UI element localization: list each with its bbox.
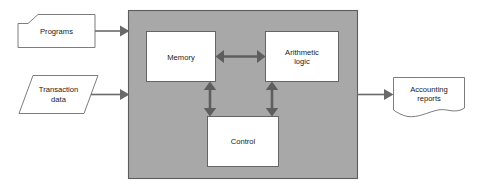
control-label: Control: [231, 137, 256, 146]
connector-transaction-to-cpu: [91, 89, 130, 100]
programs-label: Programs: [40, 27, 73, 36]
arithmetic-logic-label-line1: Arithmetic: [285, 48, 319, 57]
transaction-data-label-line2: data: [51, 95, 67, 104]
diagram-canvas: Programs Transaction data Accounting rep…: [0, 0, 484, 193]
connector-cpu-to-reports: [357, 89, 394, 100]
connector-programs-to-cpu: [95, 26, 130, 37]
block-diagram-svg: Programs Transaction data Accounting rep…: [0, 0, 484, 193]
arithmetic-logic-label-line2: logic: [294, 57, 310, 66]
transaction-data-label-line1: Transaction: [39, 85, 78, 94]
memory-label: Memory: [167, 53, 195, 62]
accounting-reports-label-line2: reports: [417, 94, 441, 103]
accounting-reports-label-line1: Accounting: [410, 85, 448, 94]
